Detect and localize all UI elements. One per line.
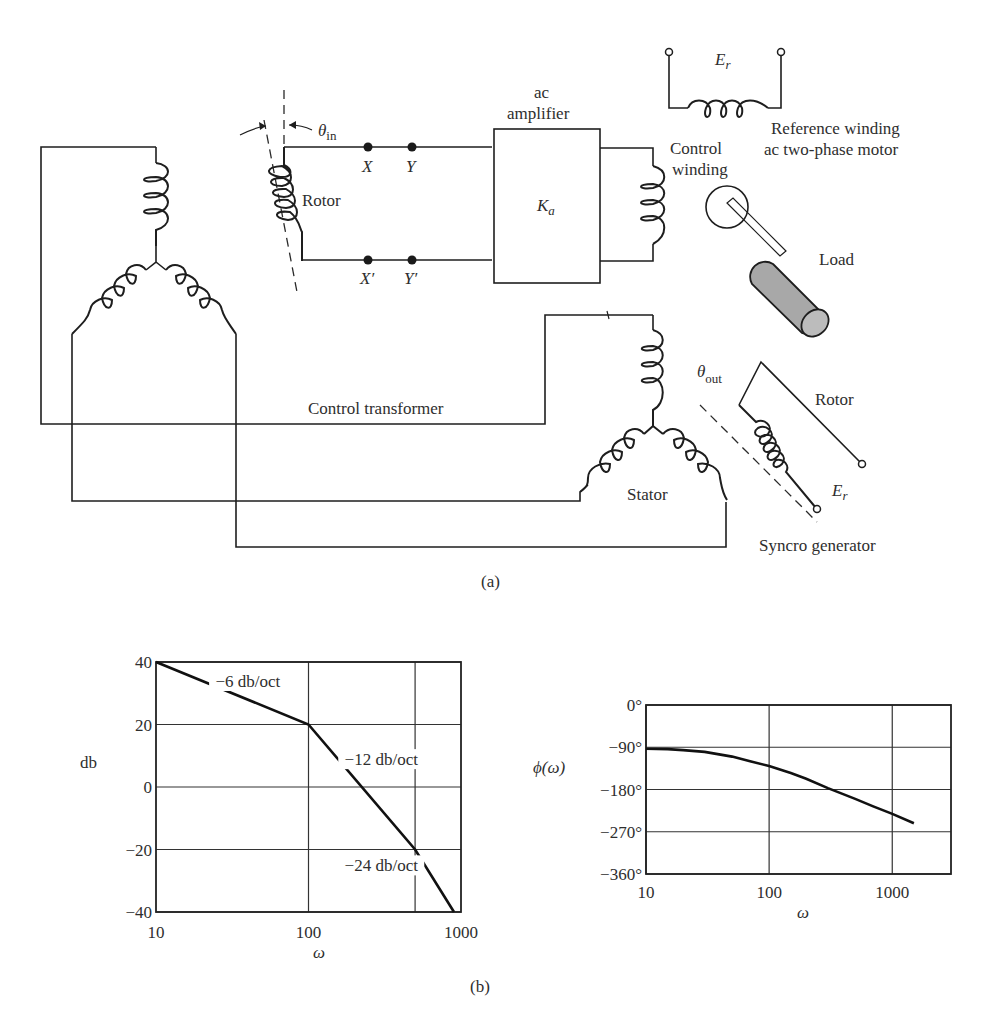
reference-winding-label-line1: Reference winding	[771, 119, 900, 138]
reference-winding: Er Reference winding ac two-phase motor …	[666, 49, 901, 180]
phase-y-ticks: 0°−90°−180°−270°−360°	[600, 696, 642, 884]
caption-a: (a)	[481, 572, 500, 591]
y-tick-label: −180°	[600, 781, 642, 800]
stator-right-coil-icon	[663, 429, 727, 500]
x-tick-label: 1000	[875, 883, 909, 902]
input-rotor-label: Rotor	[302, 191, 341, 210]
output-rotor-terminal-bottom[interactable]	[814, 506, 821, 513]
phase-grid	[646, 705, 951, 874]
ct-left-coil-icon	[72, 265, 146, 334]
figure-canvas: Control transformer θin X Y X′ Y′ Rotor …	[0, 0, 991, 1022]
phase-x-ticks: 101001000	[638, 883, 910, 902]
syncro-generator-label: Syncro generator	[759, 536, 876, 555]
magnitude-y-ticks: 40200−20−40	[125, 653, 152, 922]
phase-plot: 0°−90°−180°−270°−360° 101001000 ϕ(ω) ω	[533, 696, 951, 922]
input-rotor: θin X Y X′ Y′ Rotor	[240, 90, 492, 292]
er-bottom-symbol: Er	[831, 481, 848, 503]
theta-in-arrowhead-right	[289, 121, 296, 129]
caption-b: (b)	[470, 977, 490, 996]
wire-ct-neutral	[146, 246, 166, 270]
control-winding-label-line2: winding	[672, 160, 728, 179]
y-tick-label: 20	[135, 716, 152, 735]
amplifier-gain: Ka	[536, 196, 555, 218]
node-x-prime-label: X′	[359, 269, 374, 288]
x-tick-label: 100	[756, 883, 782, 902]
magnitude-y-axis-label: db	[80, 753, 97, 772]
reference-winding-label-line2: ac two-phase motor	[764, 140, 898, 159]
x-tick-label: 1000	[444, 923, 478, 942]
x-tick-label: 100	[296, 923, 322, 942]
node-y-prime[interactable]	[408, 256, 417, 265]
x-tick-label: 10	[148, 923, 165, 942]
magnitude-x-axis-label: ω	[313, 943, 325, 962]
x-tick-label: 10	[638, 883, 655, 902]
syncro-generator-stator: Stator	[580, 311, 727, 504]
wire-ct-top-phase	[41, 147, 653, 424]
stator-top-coil-icon	[642, 330, 663, 434]
output-rotor-coil-icon	[739, 405, 816, 508]
node-y-prime-label: Y′	[404, 269, 417, 288]
er-top-symbol: Er	[714, 50, 731, 72]
reference-winding-coil-icon	[688, 101, 768, 118]
amplifier-label-line2: amplifier	[507, 104, 570, 123]
node-x-label: X	[361, 157, 373, 176]
slope-annotation: −12 db/oct	[345, 750, 419, 769]
output-rotor-wire	[739, 362, 860, 462]
input-rotor-coil-icon	[269, 147, 303, 260]
control-transformer-label: Control transformer	[308, 399, 444, 418]
output-rotor-label: Rotor	[815, 390, 854, 409]
y-tick-label: −360°	[600, 865, 642, 884]
node-y-label: Y	[406, 157, 417, 176]
syncro-generator-rotor: θout Rotor Er Syncro generator	[697, 362, 876, 555]
theta-out-symbol: θout	[697, 362, 722, 386]
slope-annotation: −6 db/oct	[215, 672, 280, 691]
phase-series-line	[646, 749, 914, 824]
y-tick-label: −40	[125, 903, 152, 922]
magnitude-annotations: −6 db/oct−12 db/oct−24 db/oct	[209, 671, 424, 875]
wire-amp-out-top	[600, 148, 653, 166]
output-rotor-terminal-top[interactable]	[859, 461, 866, 468]
er-terminal-right[interactable]	[778, 49, 785, 56]
phase-y-axis-label: ϕ(ω)	[533, 758, 565, 777]
y-tick-label: −270°	[600, 823, 642, 842]
stator-left-coil-icon	[580, 429, 644, 492]
control-winding-label-line1: Control	[670, 139, 722, 158]
load-cylinder-icon	[750, 262, 834, 342]
node-x[interactable]	[364, 143, 373, 152]
er-terminal-left[interactable]	[666, 49, 673, 56]
slope-annotation: −24 db/oct	[345, 856, 419, 875]
y-tick-label: −20	[125, 841, 152, 860]
stator-label: Stator	[627, 485, 668, 504]
motor-shaft	[727, 198, 786, 256]
load-label: Load	[819, 250, 854, 269]
output-rotor-axis-line	[700, 405, 817, 522]
ac-amplifier: ac amplifier Ka	[494, 83, 664, 283]
y-tick-label: −90°	[609, 738, 642, 757]
wire-ref-left	[669, 56, 688, 108]
y-tick-label: 0	[144, 778, 153, 797]
phase-x-axis-label: ω	[797, 903, 809, 922]
ct-right-coil-icon	[166, 265, 236, 334]
wire-ref-right	[768, 56, 781, 108]
y-tick-label: 0°	[627, 696, 642, 715]
ct-top-coil-icon	[144, 163, 168, 246]
node-x-prime[interactable]	[364, 256, 373, 265]
amplifier-label-line1: ac	[534, 83, 550, 102]
y-tick-label: 40	[135, 653, 152, 672]
motor-and-load: Load	[706, 186, 854, 342]
magnitude-plot: 40200−20−40 101001000 −6 db/oct−12 db/oc…	[80, 653, 478, 962]
control-winding-coil-icon	[641, 166, 664, 244]
control-transformer-stator	[41, 147, 726, 547]
magnitude-x-ticks: 101001000	[148, 923, 479, 942]
theta-in-symbol: θin	[318, 121, 337, 143]
node-y[interactable]	[408, 143, 417, 152]
wire-amp-out-bottom	[600, 244, 653, 261]
